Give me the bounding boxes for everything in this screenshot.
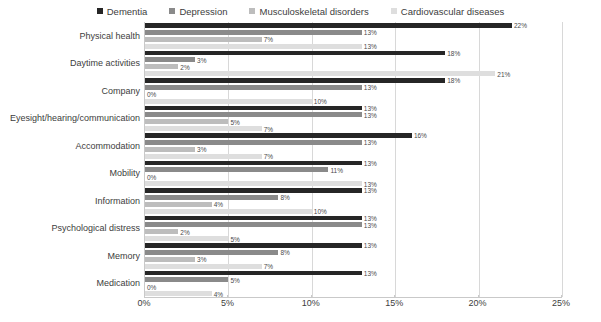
bar[interactable] [145,119,228,124]
bar-row: 7% [145,37,561,42]
bar[interactable] [145,167,328,172]
bar-value-label: 11% [328,166,343,173]
bar-row: 5% [145,236,561,241]
bar[interactable] [145,112,362,117]
bar[interactable] [145,264,262,269]
bar-group: 13%5%0%4% [145,270,561,298]
bar[interactable] [145,44,362,49]
bar[interactable] [145,154,262,159]
bar[interactable] [145,30,362,35]
x-tick-label: 20% [469,298,487,308]
bar[interactable] [145,57,195,62]
bar-value-label: 7% [262,36,273,43]
x-tick-label: 5% [221,298,234,308]
bar-row: 4% [145,202,561,207]
bar[interactable] [145,216,362,221]
bar[interactable] [145,250,278,255]
bar[interactable] [145,195,278,200]
legend-entry-2[interactable]: Musculoskeletal disorders [249,6,368,17]
bar-row: 0% [145,92,561,97]
grouped-bar-chart: DementiaDepressionMusculoskeletal disord… [0,0,601,322]
bar-value-label: 13% [362,139,377,146]
bar[interactable] [145,209,312,214]
bar[interactable] [145,140,362,145]
category-label: Information [4,196,144,206]
bar-row: 13% [145,140,561,145]
bar-row: 8% [145,250,561,255]
bar-value-label: 2% [178,63,189,70]
bar-row: 13% [145,112,561,117]
bar-group: 18%3%2%21% [145,50,561,78]
bar-value-label: 21% [495,70,510,77]
bar-value-label: 13% [362,111,377,118]
bar[interactable] [145,147,195,152]
bar-value-label: 16% [412,132,427,139]
bar[interactable] [145,243,362,248]
category-label: Company [4,86,144,96]
bar[interactable] [145,51,445,56]
bar-group: 16%13%3%7% [145,132,561,160]
bar-group: 13%8%4%10% [145,187,561,215]
bar-value-label: 18% [445,77,460,84]
bar[interactable] [145,257,195,262]
bar[interactable] [145,277,228,282]
category-label: Eyesight/hearing/communication [4,113,144,123]
bar-row: 7% [145,264,561,269]
bar-value-label: 3% [195,146,206,153]
bar[interactable] [145,161,362,166]
bar-row: 7% [145,126,561,131]
bar[interactable] [145,202,212,207]
category-axis-labels: Physical healthDaytime activitiesCompany… [0,22,144,297]
bar[interactable] [145,133,412,138]
bar-row: 22% [145,23,561,28]
bar-value-label: 3% [195,256,206,263]
bar-row: 13% [145,30,561,35]
x-tick-label: 10% [302,298,320,308]
bar[interactable] [145,188,362,193]
bar-value-label: 13% [362,29,377,36]
bar[interactable] [145,85,362,90]
category-label: Memory [4,251,144,261]
bar-row: 3% [145,57,561,62]
bar-row: 13% [145,222,561,227]
category-label: Psychological distress [4,223,144,233]
bar[interactable] [145,64,178,69]
category-label: Daytime activities [4,58,144,68]
category-label: Mobility [4,168,144,178]
x-axis-tick-labels: 0%5%10%15%20%25% [144,298,561,314]
bar-row: 4% [145,291,561,296]
bar[interactable] [145,78,445,83]
bar[interactable] [145,271,362,276]
bar[interactable] [145,71,495,76]
bar-value-label: 13% [362,159,377,166]
bar-group: 13%13%5%7% [145,105,561,133]
x-tick-label: 25% [552,298,570,308]
legend-entry-1[interactable]: Depression [169,6,227,17]
bar-value-label: 7% [262,263,273,270]
bar[interactable] [145,37,262,42]
bar-value-label: 13% [362,269,377,276]
bar-row: 18% [145,51,561,56]
bar[interactable] [145,23,512,28]
bar[interactable] [145,126,262,131]
bar[interactable] [145,222,362,227]
legend-entry-3[interactable]: Cardiovascular diseases [391,6,505,17]
bar[interactable] [145,291,212,296]
category-label: Physical health [4,31,144,41]
legend-label: Cardiovascular diseases [401,6,505,17]
bar-value-label: 18% [445,49,460,56]
bar-value-label: 10% [312,98,327,105]
bar-row: 16% [145,133,561,138]
bar-value-label: 5% [228,276,239,283]
bar[interactable] [145,181,362,186]
bar[interactable] [145,99,312,104]
bar-row: 0% [145,284,561,289]
bar-row: 10% [145,99,561,104]
bar-value-label: 4% [212,290,223,297]
bar[interactable] [145,236,228,241]
legend-entry-0[interactable]: Dementia [97,6,148,17]
bar[interactable] [145,106,362,111]
bar-value-label: 13% [362,84,377,91]
bar[interactable] [145,229,178,234]
bar-row: 2% [145,229,561,234]
